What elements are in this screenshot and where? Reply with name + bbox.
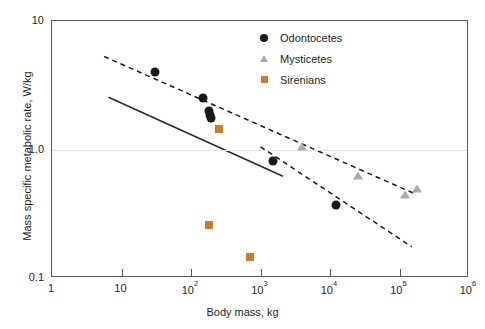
data-point-mysticetes xyxy=(353,172,363,180)
solid-regression-line xyxy=(108,97,282,176)
y-axis-title: Mass specific metabolic rate, W/kg xyxy=(21,41,33,271)
x-tick-label: 105 xyxy=(390,282,407,296)
data-point-sirenians xyxy=(246,253,254,261)
x-axis-title: Body mass, kg xyxy=(0,306,485,318)
triangle-marker-icon xyxy=(255,55,273,62)
data-point-odontocetes xyxy=(150,68,159,77)
data-point-odontocetes xyxy=(199,94,208,103)
x-tick-label: 104 xyxy=(321,282,338,296)
x-axis-tick xyxy=(122,269,123,276)
data-point-odontocetes xyxy=(207,114,216,123)
legend-label: Odontocetes xyxy=(280,32,342,44)
data-point-odontocetes xyxy=(331,200,340,209)
gridline-y-1 xyxy=(52,150,467,152)
x-axis-tick xyxy=(191,269,192,276)
x-tick-label: 1 xyxy=(48,282,54,294)
data-point-odontocetes xyxy=(268,156,277,165)
legend-label: Mysticetes xyxy=(280,53,332,65)
y-tick-label: 1.0 xyxy=(10,143,44,155)
legend-item-sirenians[interactable]: Sirenians xyxy=(255,69,342,90)
x-tick-label: 10 xyxy=(114,282,126,294)
data-point-mysticetes xyxy=(412,185,422,193)
x-axis-tick xyxy=(330,269,331,276)
y-tick-label: 0.1 xyxy=(10,271,44,283)
x-tick-label: 102 xyxy=(182,282,199,296)
legend-item-mysticetes[interactable]: Mysticetes xyxy=(255,48,342,69)
circle-marker-icon xyxy=(255,34,273,42)
legend-label: Sirenians xyxy=(280,74,326,86)
data-point-mysticetes xyxy=(400,191,410,199)
data-point-sirenians xyxy=(215,125,223,133)
lower-dashed-bound xyxy=(261,147,412,247)
legend-item-odontocetes[interactable]: Odontocetes xyxy=(255,27,342,48)
metabolic-rate-scatter-figure: Mass specific metabolic rate, W/kg Body … xyxy=(0,0,485,329)
data-point-sirenians xyxy=(205,221,213,229)
square-marker-icon xyxy=(255,76,273,83)
legend: Odontocetes Mysticetes Sirenians xyxy=(255,27,342,90)
x-axis-tick xyxy=(400,269,401,276)
y-tick-label: 10 xyxy=(10,14,44,26)
x-tick-label: 103 xyxy=(251,282,268,296)
data-point-mysticetes xyxy=(297,142,307,150)
x-axis-tick xyxy=(261,269,262,276)
x-tick-label: 106 xyxy=(460,282,477,296)
